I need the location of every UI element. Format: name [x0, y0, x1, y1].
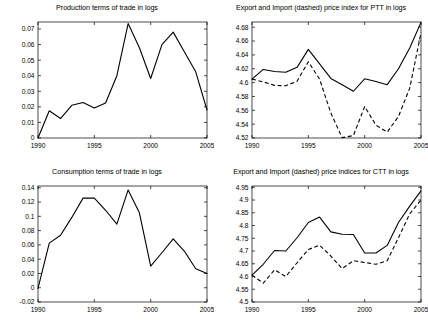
- series-line-dashed: [252, 33, 421, 138]
- x-tick-label: 1990: [245, 306, 260, 313]
- y-tick-label: 4.52: [236, 134, 249, 141]
- x-tick-label: 2000: [143, 142, 158, 149]
- plot-box: [252, 186, 421, 302]
- figure-panel-grid: Production terms of trade in logs 00.010…: [0, 0, 428, 327]
- y-tick-label: 0.14: [22, 184, 35, 191]
- y-tick-label: 4.75: [236, 235, 249, 242]
- x-tick-label: 1995: [87, 306, 102, 313]
- x-tick-label: 1990: [31, 142, 46, 149]
- y-tick-label: 0.02: [22, 103, 35, 110]
- y-tick-label: 0.04: [22, 72, 35, 79]
- x-tick-label: 2005: [414, 306, 428, 313]
- y-tick-label: 0.02: [22, 270, 35, 277]
- series-line-dashed: [252, 200, 421, 283]
- x-tick-label: 2000: [143, 306, 158, 313]
- y-tick-label: 4.68: [236, 24, 249, 31]
- chart-canvas-top-right: 4.524.544.564.584.64.624.644.664.6819901…: [214, 0, 428, 163]
- y-tick-label: 0.1: [25, 213, 34, 220]
- y-tick-label: 4.64: [236, 51, 249, 58]
- x-tick-label: 1990: [31, 306, 46, 313]
- y-tick-label: 4.9: [239, 196, 248, 203]
- y-tick-label: 0.08: [22, 227, 35, 234]
- y-tick-label: 4.85: [236, 209, 249, 216]
- y-tick-label: 4.62: [236, 65, 249, 72]
- chart-canvas-bottom-right: 4.54.554.64.654.74.754.84.854.94.9519901…: [214, 164, 428, 327]
- chart-panel-production-terms-of-trade: Production terms of trade in logs 00.010…: [0, 0, 214, 163]
- y-tick-label: 4.6: [239, 273, 248, 280]
- y-tick-label: 4.7: [239, 247, 248, 254]
- y-tick-label: 0.06: [22, 41, 35, 48]
- chart-panel-ptt-price-index: Export and Import (dashed) price index f…: [214, 0, 428, 163]
- y-tick-label: 4.54: [236, 121, 249, 128]
- x-tick-label: 2000: [357, 306, 372, 313]
- x-tick-label: 2005: [414, 142, 428, 149]
- x-tick-label: 1990: [245, 142, 260, 149]
- y-tick-label: 4.56: [236, 107, 249, 114]
- y-tick-label: 4.65: [236, 260, 249, 267]
- y-tick-label: 0.01: [22, 119, 35, 126]
- x-tick-label: 2000: [357, 142, 372, 149]
- x-tick-label: 2005: [200, 306, 214, 313]
- y-tick-label: 4.58: [236, 93, 249, 100]
- y-tick-label: 0.07: [22, 25, 35, 32]
- y-tick-label: -0.02: [19, 298, 34, 305]
- y-tick-label: 4.55: [236, 286, 249, 293]
- series-line-solid: [252, 22, 421, 91]
- x-tick-label: 2005: [200, 142, 214, 149]
- chart-canvas-top-left: 00.010.020.030.040.050.060.0719901995200…: [0, 0, 214, 163]
- y-tick-label: 4.95: [236, 184, 249, 191]
- y-tick-label: 0.12: [22, 198, 35, 205]
- y-tick-label: 4.6: [239, 79, 248, 86]
- y-tick-label: 0: [31, 284, 35, 291]
- y-tick-label: 4.5: [239, 298, 248, 305]
- y-tick-label: 0: [31, 134, 35, 141]
- chart-panel-consumption-terms-of-trade: Consumption terms of trade in logs -0.02…: [0, 164, 214, 327]
- x-tick-label: 1995: [87, 142, 102, 149]
- y-tick-label: 4.8: [239, 222, 248, 229]
- y-tick-label: 0.03: [22, 88, 35, 95]
- plot-box: [38, 22, 207, 138]
- plot-box: [38, 186, 207, 302]
- series-line-solid: [38, 190, 207, 289]
- series-line-solid: [38, 24, 207, 138]
- y-tick-label: 0.04: [22, 256, 35, 263]
- x-tick-label: 1995: [301, 142, 316, 149]
- y-tick-label: 0.05: [22, 57, 35, 64]
- chart-panel-ctt-price-indices: Export and Import (dashed) price indices…: [214, 164, 428, 327]
- y-tick-label: 0.06: [22, 241, 35, 248]
- y-tick-label: 4.66: [236, 37, 249, 44]
- chart-canvas-bottom-left: -0.0200.020.040.060.080.10.120.141990199…: [0, 164, 214, 327]
- x-tick-label: 1995: [301, 306, 316, 313]
